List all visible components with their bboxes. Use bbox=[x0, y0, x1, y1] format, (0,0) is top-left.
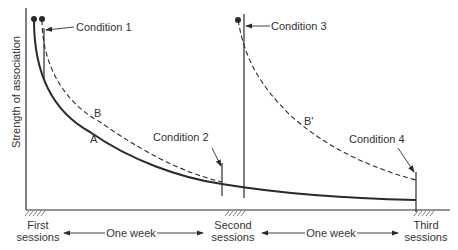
condition-3-label: Condition 3 bbox=[271, 20, 327, 32]
curve-b-label: B bbox=[94, 107, 101, 119]
condition-2-label: Condition 2 bbox=[153, 131, 209, 143]
start-dot-b bbox=[39, 16, 45, 22]
start-dot-b-prime bbox=[235, 17, 241, 23]
curve-b-prime-label: B' bbox=[304, 115, 313, 127]
interval-2-label: One week bbox=[306, 227, 356, 239]
condition-4-arrow bbox=[398, 148, 414, 172]
curve-a bbox=[34, 20, 416, 200]
first-sessions-line1: First bbox=[27, 219, 48, 231]
condition-1-arrow bbox=[46, 27, 74, 30]
hatch-third bbox=[414, 211, 434, 216]
curve-b-prime bbox=[238, 20, 416, 180]
hatch-first bbox=[25, 211, 45, 216]
hatch-second bbox=[225, 211, 245, 216]
start-dot-a bbox=[31, 16, 37, 22]
curve-b bbox=[42, 20, 222, 182]
condition-4-label: Condition 4 bbox=[349, 133, 405, 145]
y-axis-label: Strength of association bbox=[10, 36, 22, 148]
forgetting-curves-diagram: Condition 1 Condition 2 Condition 3 Cond… bbox=[0, 0, 458, 250]
third-sessions-line2: sessions bbox=[405, 231, 448, 243]
second-sessions-line1: Second bbox=[214, 219, 251, 231]
condition-2-arrow bbox=[212, 148, 221, 166]
curve-a-label: A bbox=[90, 133, 98, 145]
interval-1-label: One week bbox=[106, 227, 156, 239]
first-sessions-line2: sessions bbox=[17, 231, 60, 243]
third-sessions-line1: Third bbox=[413, 219, 438, 231]
second-sessions-line2: sessions bbox=[212, 231, 255, 243]
condition-1-label: Condition 1 bbox=[76, 21, 132, 33]
